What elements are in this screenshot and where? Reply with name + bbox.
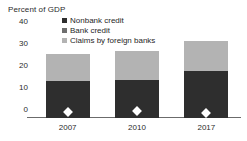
legend-label: Nonbank credit: [70, 16, 124, 25]
y-axis-tick-label: 0: [24, 105, 28, 114]
x-axis-tick-label: 2010: [128, 123, 146, 132]
y-axis-tick-label: 30: [19, 39, 28, 48]
bar-group[interactable]: 2007: [46, 54, 90, 118]
chart-container: Percent of GDP Nonbank credit Bank credi…: [0, 0, 247, 141]
x-axis-tick-label: 2017: [197, 123, 215, 132]
y-axis-tick-label: 40: [19, 17, 28, 26]
legend-item-nonbank-credit: Nonbank credit: [62, 16, 155, 25]
bar-group[interactable]: 2017: [184, 41, 228, 118]
bar-segment[interactable]: [184, 41, 228, 71]
y-axis-tick-label: 20: [19, 61, 28, 70]
y-axis-title: Percent of GDP: [8, 5, 65, 14]
bar-segment[interactable]: [46, 54, 90, 80]
legend-swatch-icon: [62, 18, 67, 23]
plot-area: 010203040200720102017: [33, 30, 241, 118]
y-axis-tick-label: 10: [19, 83, 28, 92]
x-axis-tick-label: 2007: [59, 123, 77, 132]
bar-segment[interactable]: [115, 51, 159, 80]
bar-group[interactable]: 2010: [115, 51, 159, 118]
